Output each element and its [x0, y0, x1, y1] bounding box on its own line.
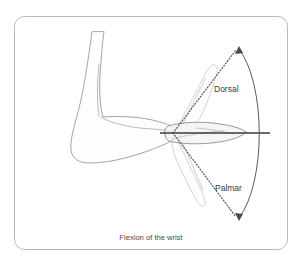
wrist-flexion-illustration: Dorsal Palmar Flexion of the wrist [0, 0, 302, 266]
wrist-flexion-figure: Dorsal Palmar Flexion of the wrist [0, 0, 302, 266]
label-palmar: Palmar [215, 183, 242, 193]
label-dorsal: Dorsal [214, 84, 239, 94]
figure-caption: Flexion of the wrist [119, 233, 183, 242]
